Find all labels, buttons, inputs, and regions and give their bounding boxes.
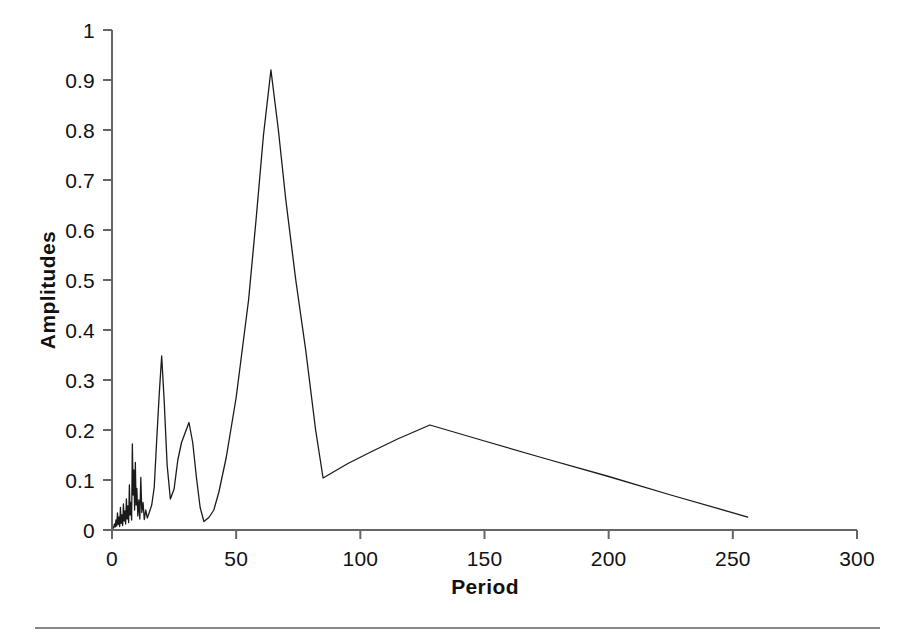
x-axis-group	[112, 530, 857, 539]
y-axis-title: Amplitudes	[37, 231, 58, 349]
y-tick-label: 0.9	[0, 70, 95, 91]
amplitude-series-line	[113, 70, 747, 528]
chart-figure: 00.10.20.30.40.50.60.70.80.91 0501001502…	[0, 0, 914, 637]
y-axis-group	[103, 30, 112, 530]
x-tick-label: 200	[591, 548, 627, 569]
plot-canvas	[0, 0, 914, 637]
y-tick-label: 1	[0, 20, 95, 41]
y-tick-label: 0.3	[0, 370, 95, 391]
x-tick-label: 0	[106, 548, 118, 569]
x-axis-ticks	[112, 530, 857, 539]
x-tick-label: 150	[467, 548, 503, 569]
x-tick-label: 300	[839, 548, 875, 569]
x-tick-label: 250	[715, 548, 751, 569]
bottom-divider-rule	[35, 627, 880, 629]
x-axis-title: Period	[451, 576, 519, 597]
y-tick-label: 0.7	[0, 170, 95, 191]
y-tick-label: 0	[0, 520, 95, 541]
y-tick-label: 0.8	[0, 120, 95, 141]
y-tick-label: 0.2	[0, 420, 95, 441]
data-series-group	[113, 70, 747, 528]
x-tick-label: 100	[343, 548, 379, 569]
y-tick-label: 0.1	[0, 470, 95, 491]
x-tick-label: 50	[224, 548, 248, 569]
y-axis-ticks	[103, 30, 112, 530]
